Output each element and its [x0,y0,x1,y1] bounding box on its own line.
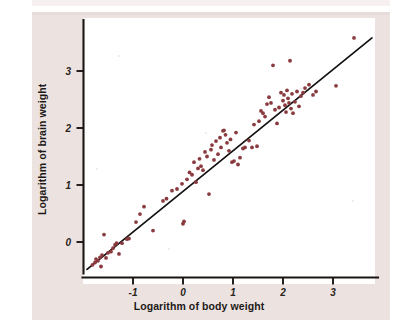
x-axis-title: Logarithm of body weight [0,300,398,312]
y-tick-label: 2 [66,123,72,134]
scan-artifact [300,88,302,90]
scan-artifact [168,248,170,250]
y-tick-label: 1 [66,180,72,191]
y-tick-label: 3 [66,66,72,77]
x-tick-label: 0 [180,287,186,298]
scan-artifact [96,168,98,170]
x-tick-label: 1 [230,287,236,298]
plot-area [83,18,375,284]
scan-top-clip-strip [32,0,390,6]
figure-panel [32,12,390,320]
x-tick-label: -1 [129,287,138,298]
scan-artifact [205,132,207,134]
scan-artifact [352,200,354,202]
x-tick-label: 2 [280,287,286,298]
y-tick-label: 0 [66,237,72,248]
y-axis-title: Logarithm of brain weight [36,84,48,215]
x-tick-label: 3 [330,287,336,298]
scan-artifact [118,55,120,57]
